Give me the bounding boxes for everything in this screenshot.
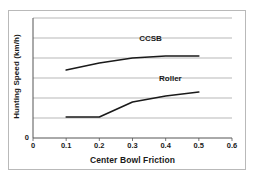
x-axis-title: Center Bowl Friction [33, 155, 232, 165]
y-axis-title: Hunting Speed (km/h) [12, 27, 21, 127]
series-lines [66, 56, 199, 117]
x-tick-label: 0.3 [121, 141, 145, 150]
chart-plot-area [0, 0, 254, 179]
x-tick-label: 0.6 [220, 141, 244, 150]
chart-screenshot: Hunting Speed (km/h) Center Bowl Frictio… [0, 0, 254, 179]
x-tick-label: 0.4 [154, 141, 178, 150]
gridlines [33, 18, 232, 138]
x-tick-label: 0 [21, 141, 45, 150]
x-tick-label: 0.5 [187, 141, 211, 150]
x-tick-label: 0.1 [54, 141, 78, 150]
series-label-roller: Roller [159, 74, 182, 83]
y-tick-label: 0 [15, 133, 29, 142]
x-tick-label: 0.2 [87, 141, 111, 150]
series-line-roller [66, 92, 199, 117]
series-label-ccsb: CCSB [139, 34, 162, 43]
